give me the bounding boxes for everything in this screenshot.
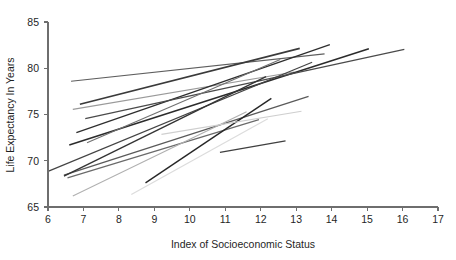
x-tick-label-6: 6 [45, 213, 51, 225]
trend-line-6 [85, 49, 404, 118]
x-tick-label-17: 17 [432, 213, 444, 225]
trend-line-1 [71, 54, 324, 81]
trend-line-13 [131, 119, 268, 195]
trend-line-15 [161, 111, 301, 134]
x-tick-label-12: 12 [255, 213, 267, 225]
x-tick-label-8: 8 [116, 213, 122, 225]
y-axis-ticks: 6570758085 [27, 16, 48, 213]
x-tick-label-13: 13 [290, 213, 302, 225]
x-tick-label-10: 10 [184, 213, 196, 225]
x-axis-ticks: 67891011121314151617 [45, 207, 444, 225]
trend-line-11 [68, 120, 259, 178]
y-tick-label-85: 85 [27, 16, 39, 28]
y-tick-label-80: 80 [27, 62, 39, 74]
trend-line-16 [220, 141, 286, 153]
x-tick-label-7: 7 [81, 213, 87, 225]
y-axis-title: Life Expectancy In Years [4, 58, 16, 173]
trend-line-4 [76, 45, 329, 133]
y-tick-label-70: 70 [27, 155, 39, 167]
trend-line-14 [146, 98, 272, 183]
y-tick-label-75: 75 [27, 108, 39, 120]
scatter-trend-plot: 6570758085 67891011121314151617 Index of… [0, 0, 456, 260]
chart-figure: 6570758085 67891011121314151617 Index of… [0, 0, 456, 260]
trend-line-group [48, 45, 404, 196]
x-tick-label-14: 14 [326, 213, 338, 225]
x-tick-label-16: 16 [397, 213, 409, 225]
x-axis-title: Index of Socioeconomic Status [171, 238, 315, 250]
figure-caption [0, 251, 456, 260]
x-tick-label-9: 9 [151, 213, 157, 225]
y-tick-label-65: 65 [27, 201, 39, 213]
x-tick-label-15: 15 [361, 213, 373, 225]
x-tick-label-11: 11 [220, 213, 231, 225]
